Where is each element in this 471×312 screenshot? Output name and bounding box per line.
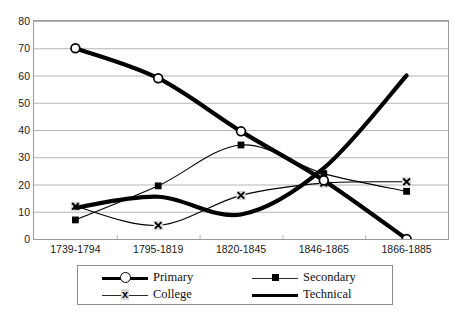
data-point-marker (319, 176, 328, 185)
legend-key-technical-icon (252, 289, 298, 301)
legend-label-primary: Primary (153, 270, 193, 285)
legend-key-college-icon: x (102, 289, 148, 301)
legend-label-technical: Technical (303, 287, 351, 302)
legend-item-technical[interactable]: Technical (228, 287, 394, 302)
y-axis: 80706050403020100 (0, 20, 30, 240)
legend-key-primary-icon (102, 272, 148, 284)
legend: Primary Secondary x College (77, 265, 393, 305)
y-tick-label: 70 (4, 43, 30, 54)
legend-label-secondary: Secondary (303, 270, 356, 285)
series-layer (34, 21, 448, 239)
x-tick-label: 1739-1794 (30, 244, 120, 255)
y-tick-label: 30 (4, 152, 30, 163)
x-tick-label: 1866-1885 (362, 244, 452, 255)
x-tick-label: 1795-1819 (113, 244, 203, 255)
y-tick-label: 0 (4, 234, 30, 245)
plot-area (33, 20, 449, 240)
data-point-marker (71, 44, 80, 53)
series-secondary (72, 142, 410, 224)
data-point-marker (155, 182, 162, 189)
y-tick-label: 50 (4, 98, 30, 109)
legend-item-secondary[interactable]: Secondary (228, 270, 394, 285)
legend-item-primary[interactable]: Primary (78, 270, 228, 285)
legend-item-college[interactable]: x College (78, 287, 228, 302)
y-tick-label: 10 (4, 207, 30, 218)
y-tick-label: 60 (4, 71, 30, 82)
y-tick-label: 20 (4, 180, 30, 191)
legend-key-secondary-icon (252, 272, 298, 284)
series-primary (71, 44, 411, 239)
x-tick-label: 1846-1865 (279, 244, 369, 255)
y-tick-label: 80 (4, 16, 30, 27)
data-point-marker (154, 74, 163, 83)
data-point-marker (403, 188, 410, 195)
data-point-marker (237, 127, 246, 136)
data-point-marker (402, 235, 411, 239)
x-tick-label: 1820-1845 (196, 244, 286, 255)
x-axis: 1739-17941795-18191820-18451846-18651866… (33, 244, 449, 258)
data-point-marker (72, 217, 79, 224)
y-tick-label: 40 (4, 125, 30, 136)
line-chart: 80706050403020100 1739-17941795-18191820… (0, 0, 471, 312)
data-point-marker (238, 142, 245, 149)
legend-label-college: College (153, 287, 192, 302)
